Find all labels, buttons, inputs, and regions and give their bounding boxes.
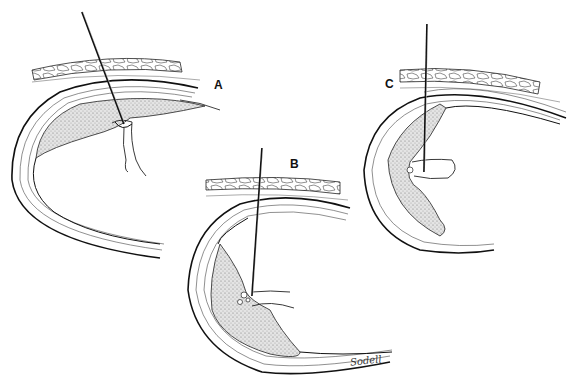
panel-c — [364, 24, 566, 253]
panel-a — [12, 12, 220, 258]
panel-label-c: C — [385, 77, 394, 91]
panel-b — [188, 148, 392, 374]
panel-label-b: B — [290, 157, 299, 171]
illustration-svg — [0, 0, 578, 387]
illustration: A B C Sodell — [0, 0, 578, 387]
panel-label-a: A — [214, 78, 223, 92]
